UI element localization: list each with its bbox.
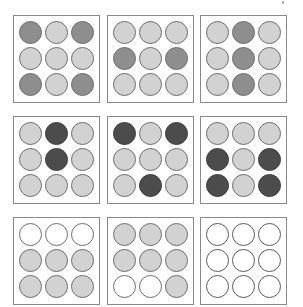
midlight-circle — [139, 275, 162, 298]
light-circle — [232, 148, 255, 171]
matrix-panel-r3-c2 — [107, 217, 194, 305]
empty-circle — [258, 249, 281, 272]
light-circle — [71, 174, 94, 197]
midlight-circle — [19, 223, 42, 246]
dark-circle — [258, 174, 281, 197]
light-circle — [165, 223, 188, 246]
light-circle — [258, 122, 281, 145]
dark-circle — [165, 122, 188, 145]
light-circle — [165, 249, 188, 272]
matrix-panel-r1-c2 — [107, 15, 194, 103]
matrix-panel-r2-c2 — [107, 116, 194, 204]
light-circle — [139, 148, 162, 171]
mid-circle — [232, 21, 255, 44]
light-circle — [45, 47, 68, 70]
midlight-circle — [45, 223, 68, 246]
matrix-panel-r2-c1 — [13, 116, 100, 204]
empty-circle — [258, 275, 281, 298]
light-circle — [19, 122, 42, 145]
light-circle — [71, 47, 94, 70]
light-circle — [45, 249, 68, 272]
dark-circle — [45, 122, 68, 145]
light-circle — [113, 223, 136, 246]
light-circle — [71, 148, 94, 171]
mid-circle — [19, 73, 42, 96]
light-circle — [232, 122, 255, 145]
light-circle — [45, 73, 68, 96]
matrix-panel-r3-c1 — [13, 217, 100, 305]
light-circle — [139, 223, 162, 246]
midlight-circle — [113, 275, 136, 298]
light-circle — [71, 122, 94, 145]
light-circle — [165, 148, 188, 171]
light-circle — [139, 249, 162, 272]
light-circle — [258, 47, 281, 70]
light-circle — [165, 73, 188, 96]
mid-circle — [71, 21, 94, 44]
matrix-panel-r2-c3 — [200, 116, 287, 204]
midlight-circle — [71, 223, 94, 246]
corner-mark — [282, 1, 284, 4]
light-circle — [45, 275, 68, 298]
dark-circle — [258, 148, 281, 171]
empty-circle — [232, 249, 255, 272]
light-circle — [19, 174, 42, 197]
light-circle — [71, 249, 94, 272]
light-circle — [19, 249, 42, 272]
light-circle — [113, 148, 136, 171]
light-circle — [19, 148, 42, 171]
light-circle — [139, 47, 162, 70]
light-circle — [19, 275, 42, 298]
mid-circle — [71, 73, 94, 96]
mid-circle — [232, 47, 255, 70]
light-circle — [258, 21, 281, 44]
light-circle — [165, 21, 188, 44]
dark-circle — [206, 148, 229, 171]
light-circle — [113, 174, 136, 197]
light-circle — [71, 275, 94, 298]
light-circle — [45, 174, 68, 197]
light-circle — [165, 174, 188, 197]
empty-circle — [232, 275, 255, 298]
light-circle — [258, 73, 281, 96]
light-circle — [139, 122, 162, 145]
empty-circle — [206, 249, 229, 272]
light-circle — [113, 21, 136, 44]
light-circle — [232, 174, 255, 197]
light-circle — [206, 122, 229, 145]
dark-circle — [139, 174, 162, 197]
light-circle — [165, 275, 188, 298]
light-circle — [113, 73, 136, 96]
empty-circle — [206, 223, 229, 246]
light-circle — [206, 21, 229, 44]
matrix-puzzle — [0, 0, 303, 307]
light-circle — [206, 73, 229, 96]
dark-circle — [113, 122, 136, 145]
dark-circle — [206, 174, 229, 197]
light-circle — [113, 249, 136, 272]
empty-circle — [232, 223, 255, 246]
light-circle — [139, 21, 162, 44]
matrix-panel-r1-c3 — [200, 15, 287, 103]
empty-circle — [258, 223, 281, 246]
light-circle — [45, 21, 68, 44]
light-circle — [19, 47, 42, 70]
matrix-panel-r1-c1 — [13, 15, 100, 103]
light-circle — [206, 47, 229, 70]
mid-circle — [113, 47, 136, 70]
mid-circle — [19, 21, 42, 44]
light-circle — [139, 73, 162, 96]
answer-panel — [200, 217, 287, 305]
dark-circle — [45, 148, 68, 171]
empty-circle — [206, 275, 229, 298]
mid-circle — [165, 47, 188, 70]
mid-circle — [232, 73, 255, 96]
